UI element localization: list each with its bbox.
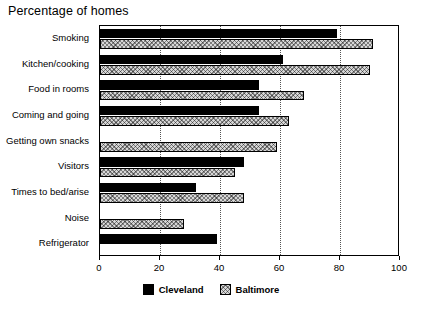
category-label-7: Noise xyxy=(65,213,89,223)
x-tick-20 xyxy=(159,256,160,260)
x-axis-tick-labels: 020406080100 xyxy=(0,262,422,276)
x-tick-label-20: 20 xyxy=(154,262,165,273)
bar-baltimore-0 xyxy=(100,39,373,49)
category-label-8: Refrigerator xyxy=(39,238,89,248)
bar-baltimore-3 xyxy=(100,116,289,126)
bar-baltimore-1 xyxy=(100,65,370,75)
bar-baltimore-2 xyxy=(100,91,304,101)
x-tick-80 xyxy=(339,256,340,260)
bar-cleveland-5 xyxy=(100,157,244,167)
x-tick-0 xyxy=(99,256,100,260)
bar-baltimore-5 xyxy=(100,168,235,178)
bar-cleveland-8 xyxy=(100,234,217,244)
category-label-2: Food in rooms xyxy=(28,84,89,94)
category-label-3: Coming and going xyxy=(12,110,89,120)
legend-swatch-icon-cleveland xyxy=(143,284,154,295)
category-label-0: Smoking xyxy=(52,33,89,43)
bar-cleveland-3 xyxy=(100,106,259,116)
x-tick-40 xyxy=(219,256,220,260)
bar-cleveland-6 xyxy=(100,183,196,193)
category-axis-labels: SmokingKitchen/cookingFood in roomsComin… xyxy=(0,25,95,256)
category-label-5: Visitors xyxy=(58,161,89,171)
x-tick-label-40: 40 xyxy=(214,262,225,273)
x-tick-label-60: 60 xyxy=(274,262,285,273)
bar-baltimore-6 xyxy=(100,193,244,203)
chart-title: Percentage of homes xyxy=(8,4,129,18)
x-tick-100 xyxy=(399,256,400,260)
bar-baltimore-7 xyxy=(100,219,184,229)
bars-layer xyxy=(100,26,398,255)
category-label-1: Kitchen/cooking xyxy=(22,59,89,69)
bar-cleveland-1 xyxy=(100,55,283,65)
plot-area xyxy=(99,25,399,256)
category-label-6: Times to bed/arise xyxy=(11,187,89,197)
bar-cleveland-0 xyxy=(100,29,337,39)
x-tick-label-0: 0 xyxy=(96,262,101,273)
legend-item-baltimore: Baltimore xyxy=(220,284,280,295)
bar-cleveland-2 xyxy=(100,80,259,90)
x-tick-label-80: 80 xyxy=(334,262,345,273)
chart-legend: ClevelandBaltimore xyxy=(0,284,422,295)
legend-item-cleveland: Cleveland xyxy=(143,284,204,295)
category-label-4: Getting own snacks xyxy=(6,136,89,146)
x-tick-label-100: 100 xyxy=(391,262,407,273)
x-tick-60 xyxy=(279,256,280,260)
legend-label-baltimore: Baltimore xyxy=(236,284,280,295)
bar-chart: Percentage of homes SmokingKitchen/cooki… xyxy=(0,0,422,309)
bar-baltimore-4 xyxy=(100,142,277,152)
legend-label-cleveland: Cleveland xyxy=(159,284,204,295)
legend-swatch-icon-baltimore xyxy=(220,284,231,295)
